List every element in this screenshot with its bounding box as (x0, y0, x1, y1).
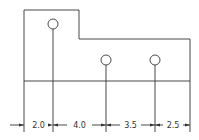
arrowhead-icon (185, 124, 190, 127)
arrowhead-icon (48, 124, 53, 127)
arrowhead-icon (155, 124, 160, 127)
dimension-label-4: 2.5 (167, 121, 180, 130)
arrowhead-icon (150, 124, 155, 127)
arrowhead-icon (53, 124, 58, 127)
arrowhead-icon (106, 124, 111, 127)
arrowhead-icon (101, 124, 106, 127)
arrowhead-icon (19, 124, 24, 127)
hole-3 (150, 55, 160, 65)
hole-1 (48, 19, 58, 29)
drawing-canvas: 2.0 4.0 3.5 2.5 (0, 0, 199, 140)
dimension-label-3: 3.5 (124, 121, 137, 130)
dimension-label-1: 2.0 (32, 121, 45, 130)
hole-2 (101, 55, 111, 65)
dimension-label-2: 4.0 (73, 121, 86, 130)
